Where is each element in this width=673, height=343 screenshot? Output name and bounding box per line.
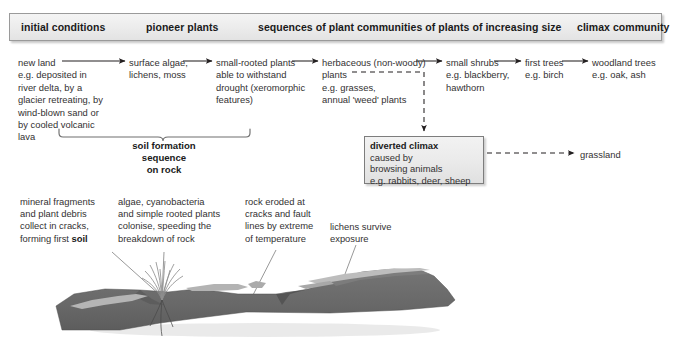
banner-stage-sequences: sequences of plant communities of plants… — [258, 21, 561, 33]
callout-soil-formation: mineral fragments and plant debris colle… — [20, 196, 118, 245]
banner-stage-climax: climax community — [577, 21, 669, 33]
stage-new-land: new land e.g. deposited in river delta, … — [18, 57, 114, 144]
lichen-patches — [70, 268, 430, 309]
callout-rock-erosion: rock eroded at cracks and fault lines by… — [245, 196, 321, 245]
banner-stage-initial: initial conditions — [21, 21, 105, 33]
grass-tuft — [142, 261, 183, 300]
stage-woodland-trees: woodland trees e.g. oak, ash — [592, 57, 670, 82]
stage-herbaceous-plants: herbaceous (non-woody) plants e.g. grass… — [322, 57, 434, 107]
diverted-climax-box: diverted climax caused by browsing anima… — [364, 136, 484, 184]
diagram-vector-layer — [0, 0, 673, 343]
callout-lichens-survive: lichens survive exposure — [330, 221, 420, 245]
banner-stage-pioneer: pioneer plants — [146, 21, 218, 33]
soil-formation-sequence-label: soil formation sequence on rock — [103, 140, 225, 175]
callout-leader-lines — [112, 245, 356, 296]
grassland-label: grassland — [580, 149, 621, 160]
succession-diagram-page: initial conditions pioneer plants sequen… — [0, 0, 673, 343]
callout-soil-keyword: soil — [72, 233, 88, 244]
callout-algae-colonise: algae, cyanobacteria and simple rooted p… — [118, 196, 234, 245]
diverted-climax-title: diverted climax — [370, 140, 483, 152]
grass-roots — [150, 300, 173, 336]
rock-outcrop-illustration — [56, 261, 455, 337]
stage-small-rooted-plants: small-rooted plants able to withstand dr… — [216, 57, 316, 107]
stage-surface-algae: surface algae, lichens, moss — [129, 57, 203, 82]
succession-stage-banner: initial conditions pioneer plants sequen… — [9, 13, 662, 41]
stage-first-trees: first trees e.g. birch — [525, 57, 587, 82]
diverted-climax-body: caused by browsing animals e.g. rabbits,… — [370, 152, 483, 187]
stage-small-shrubs: small shrubs e.g. blackberry, hawthorn — [446, 57, 522, 94]
